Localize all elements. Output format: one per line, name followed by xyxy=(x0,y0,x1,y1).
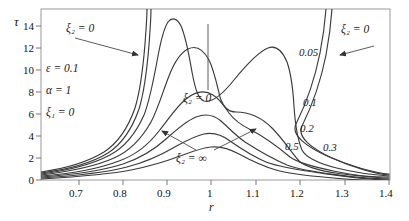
y-tick-4: 4 xyxy=(12,130,34,142)
curve-label-0.3: 0.3 xyxy=(323,141,337,153)
annotation-xi2-zero-topright: ξ₂ = 0 xyxy=(341,23,369,35)
x-tick-0.7: 0.7 xyxy=(69,187,83,199)
y-tick-12: 12 xyxy=(12,42,34,54)
annotation-xi2-infinity: ξ₂ = ∞ xyxy=(176,152,207,164)
x-tick-1: 1 xyxy=(207,187,213,199)
curve-label-0.2: 0.2 xyxy=(300,122,314,134)
curve-label-0.5: 0.5 xyxy=(285,140,299,152)
annotation-xi2-zero-center: ξ₂ = 0 xyxy=(183,92,211,104)
y-axis-ticks xyxy=(36,26,41,180)
param-epsilon: ε = 0.1 xyxy=(46,62,78,74)
x-axis-label: r xyxy=(209,200,214,215)
y-tick-8: 8 xyxy=(12,86,34,98)
x-tick-0.8: 0.8 xyxy=(113,187,127,199)
y-tick-0: 0 xyxy=(12,174,34,186)
param-xi1: ξ₁ = 0 xyxy=(46,106,74,118)
x-tick-1.2: 1.2 xyxy=(290,187,304,199)
annotation-xi2-zero-topleft: ξ₂ = 0 xyxy=(66,22,94,34)
x-tick-1.3: 1.3 xyxy=(335,187,349,199)
figure-container: τ 14 12 10 8 6 4 2 0 0.7 0.8 0.9 1 1.1 1… xyxy=(0,0,409,221)
x-tick-1.4: 1.4 xyxy=(379,187,393,199)
param-alpha: α = 1 xyxy=(46,84,71,96)
y-tick-10: 10 xyxy=(12,64,34,76)
curve-label-0.05: 0.05 xyxy=(299,46,318,58)
curve-label-0.1: 0.1 xyxy=(303,96,317,108)
y-tick-14: 14 xyxy=(12,20,34,32)
x-tick-0.9: 0.9 xyxy=(157,187,171,199)
y-tick-6: 6 xyxy=(12,108,34,120)
plot-frame xyxy=(41,9,390,180)
x-tick-1.1: 1.1 xyxy=(246,187,260,199)
y-tick-2: 2 xyxy=(12,152,34,164)
x-axis-ticks xyxy=(79,180,389,185)
